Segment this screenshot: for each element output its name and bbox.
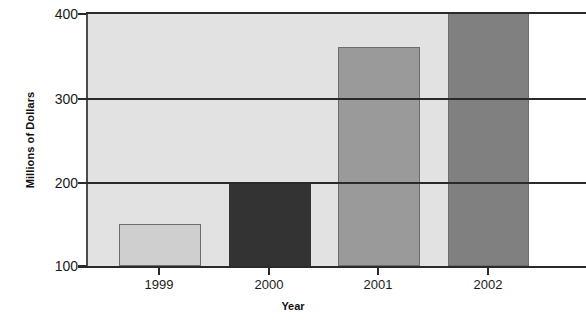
- y-tick-label-200: 200: [30, 175, 78, 191]
- y-tick-label-100: 100: [30, 258, 78, 274]
- plot-area: [86, 14, 529, 266]
- x-tick-mark-2001: [377, 268, 379, 275]
- x-axis-title: Year: [0, 300, 586, 312]
- x-tick-label-2000: 2000: [229, 277, 309, 292]
- x-tick-mark-1999: [158, 268, 160, 275]
- x-tick-label-1999: 1999: [119, 277, 199, 292]
- x-tick-label-2002: 2002: [448, 277, 528, 292]
- axis-line-top-400: [86, 12, 586, 14]
- bar-2001[interactable]: [338, 47, 420, 266]
- bar-2000[interactable]: [229, 182, 311, 266]
- y-tick-mark-400: [78, 13, 86, 15]
- y-tick-mark-200: [78, 182, 86, 184]
- x-tick-label-2001: 2001: [338, 277, 418, 292]
- y-tick-label-400: 400: [30, 6, 78, 22]
- axis-line-baseline-100: [78, 266, 586, 268]
- x-tick-mark-2000: [268, 268, 270, 275]
- gridline-200: [86, 182, 586, 184]
- bar-chart-figure: Millions of Dollars 400 300 200 100 1999…: [0, 0, 586, 327]
- x-tick-mark-2002: [487, 268, 489, 275]
- bar-1999[interactable]: [119, 224, 201, 266]
- y-tick-mark-300: [78, 98, 86, 100]
- y-axis-ticks: 400 300 200 100: [0, 0, 78, 327]
- y-tick-label-300: 300: [30, 91, 78, 107]
- bar-2002[interactable]: [448, 14, 529, 266]
- gridline-300: [86, 98, 586, 100]
